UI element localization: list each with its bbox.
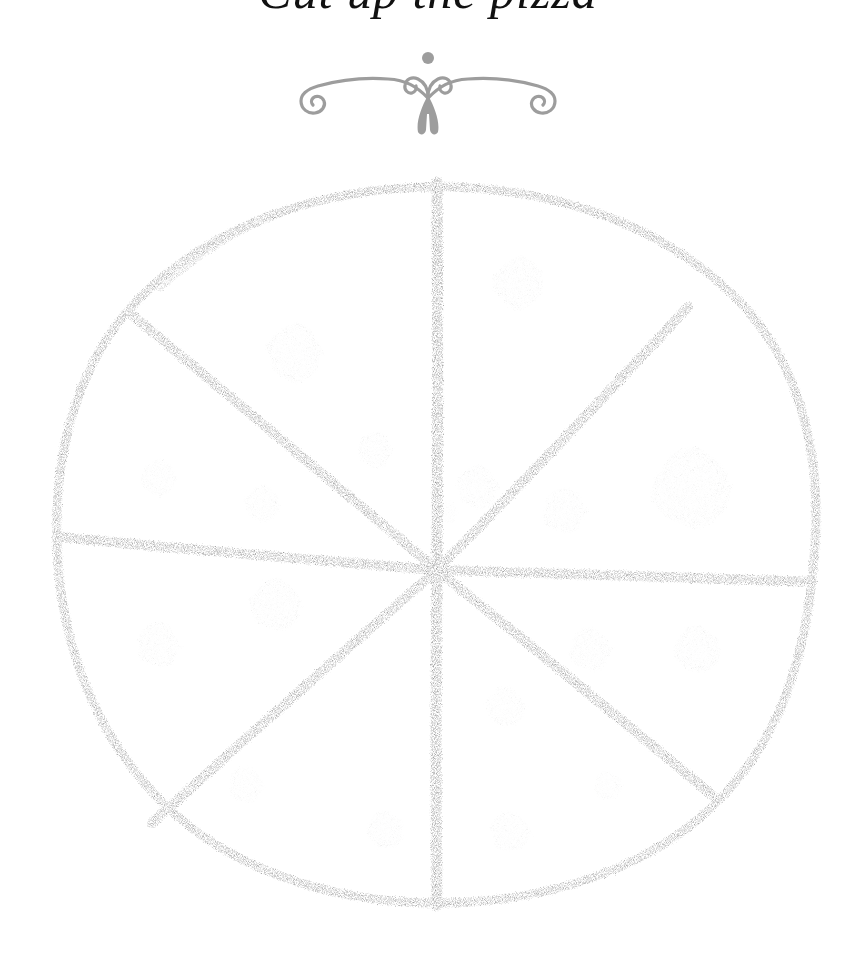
pizza-sketch-svg: [0, 0, 856, 958]
pepperoni-11: [571, 630, 610, 668]
pepperoni-4: [142, 461, 174, 495]
pepperoni-18: [436, 501, 457, 522]
pepperoni-15: [595, 773, 621, 797]
pepperoni-8: [655, 451, 727, 526]
pepperoni-10: [139, 624, 178, 665]
pepperoni-13: [487, 689, 524, 726]
pepperoni-6: [459, 467, 497, 507]
pepperoni-1: [495, 259, 540, 308]
pepperoni-7: [545, 490, 585, 532]
pepperoni-5: [246, 487, 277, 521]
pepperoni-16: [368, 813, 401, 847]
pepperoni-2: [269, 326, 321, 380]
pepperoni-17: [492, 814, 529, 850]
pepperoni-9: [252, 580, 299, 628]
vertical-divider: [436, 182, 438, 905]
pepperoni-3: [360, 433, 391, 467]
pepperoni-12: [676, 628, 718, 671]
pepperoni-14: [231, 769, 262, 800]
slice-dividers: [58, 182, 812, 905]
page-canvas: Cut up the pizza: [0, 0, 856, 958]
divider-hub: [425, 558, 449, 582]
